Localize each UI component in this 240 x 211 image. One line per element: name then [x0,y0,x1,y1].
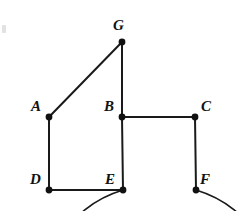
vertex-label-c: C [201,99,211,114]
vertex-dot-f [193,187,200,194]
vertex-dot-d [46,187,53,194]
circle-arc [56,190,240,211]
edge-b-e [122,117,123,190]
vertex-dot-c [192,114,199,121]
vertex-label-g: G [113,18,124,33]
vertex-dot-b [119,114,126,121]
vertex-label-b: B [104,99,114,114]
circle-arc-group [56,190,240,211]
vertex-label-d: D [30,172,41,187]
vertex-label-f: F [200,172,210,187]
vertex-dot-e [120,187,127,194]
vertex-dot-a [46,114,53,121]
geometry-figure: GABCDEF [0,0,240,211]
vertex-label-e: E [105,172,115,187]
vertex-label-a: A [31,99,41,114]
edge-c-f [195,117,196,190]
vertex-dot-g [119,39,126,46]
